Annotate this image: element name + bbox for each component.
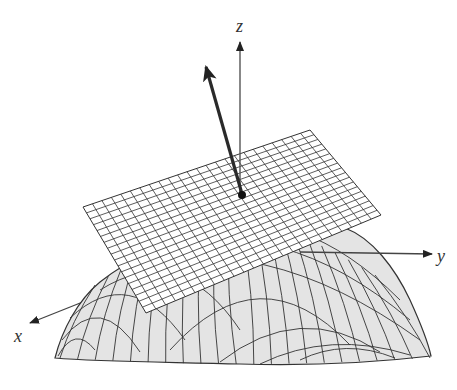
z-axis-label: z [235, 16, 243, 36]
tangent-plane-diagram: z y x [0, 0, 457, 390]
point-of-tangency [238, 191, 246, 199]
y-axis-label: y [435, 246, 445, 266]
x-axis-label: x [13, 326, 22, 346]
